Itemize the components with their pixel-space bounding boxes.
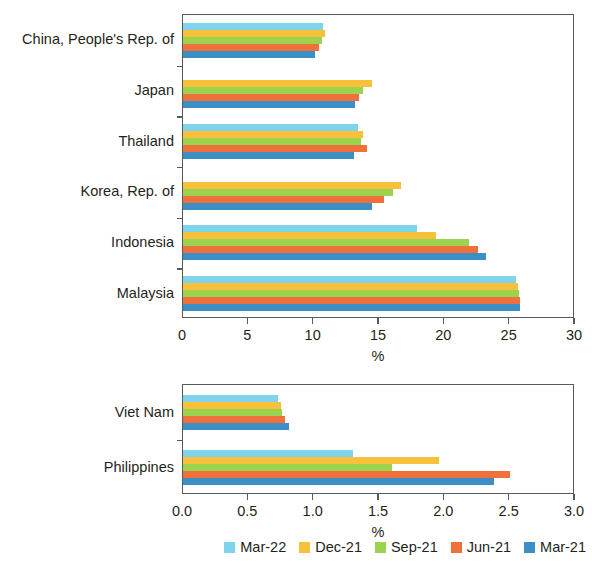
bar [183, 131, 363, 138]
bar [183, 232, 436, 239]
category-label: Japan [134, 83, 174, 98]
legend-color-swatch [299, 542, 310, 553]
chart-panel-bottom: 0.00.51.01.52.02.53.0% Viet NamPhilippin… [0, 368, 592, 528]
bar [183, 152, 354, 159]
bar [183, 402, 281, 409]
bar [183, 138, 361, 145]
bar [183, 239, 469, 246]
bar-group [183, 167, 573, 218]
category-label: Korea, Rep. of [81, 184, 175, 199]
bar [183, 478, 494, 485]
bar [183, 44, 319, 51]
bar [183, 37, 322, 44]
legend-label: Jun-21 [467, 540, 511, 555]
legend-item: Dec-21 [299, 540, 362, 555]
bar [183, 416, 285, 423]
bar [183, 124, 358, 131]
bar [183, 290, 519, 297]
bar-group [183, 116, 573, 167]
category-label: Indonesia [111, 235, 174, 250]
legend-color-swatch [224, 542, 235, 553]
legend-label: Mar-22 [240, 540, 286, 555]
bar [183, 225, 417, 232]
chart-panel-top: 051015202530% China, People's Rep. ofJap… [0, 0, 592, 360]
x-axis-tick-label: 0.5 [237, 504, 257, 519]
bar [183, 457, 439, 464]
category-label-column-bottom [0, 368, 176, 528]
x-axis-tick-label: 0 [178, 328, 186, 343]
x-axis-tick-label: 5 [243, 328, 251, 343]
x-axis-tick-label: 2.0 [433, 504, 453, 519]
x-axis-tick [573, 494, 574, 500]
bar [183, 297, 520, 304]
bar [183, 101, 355, 108]
x-axis-tick [377, 494, 378, 500]
chart-figure: 051015202530% China, People's Rep. ofJap… [0, 0, 592, 566]
bar [183, 423, 289, 430]
bar [183, 283, 518, 290]
legend-color-swatch [375, 542, 386, 553]
x-axis-tick [443, 318, 444, 324]
x-axis-tick [508, 318, 509, 324]
bar-group [183, 15, 573, 66]
category-label: Thailand [118, 134, 174, 149]
x-axis-title: % [372, 349, 385, 364]
x-axis-tick-label: 20 [435, 328, 451, 343]
bar [183, 80, 372, 87]
bar [183, 395, 278, 402]
category-label: Philippines [104, 460, 174, 475]
legend-label: Sep-21 [391, 540, 438, 555]
plot-area-top [182, 14, 574, 318]
bar [183, 464, 392, 471]
bar [183, 246, 478, 253]
bar [183, 409, 282, 416]
bar [183, 304, 520, 311]
bar-group [183, 218, 573, 269]
bar [183, 253, 486, 260]
x-axis-tick-label: 25 [501, 328, 517, 343]
bar [183, 471, 510, 478]
legend-item: Mar-21 [524, 540, 586, 555]
x-axis-tick [443, 494, 444, 500]
legend-color-swatch [524, 542, 535, 553]
bar [183, 203, 372, 210]
x-axis-tick-label: 1.5 [368, 504, 388, 519]
x-axis-tick-label: 0.0 [172, 504, 192, 519]
bar [183, 145, 367, 152]
x-axis-tick-label: 1.0 [303, 504, 323, 519]
category-label: Malaysia [117, 286, 174, 301]
bar [183, 450, 353, 457]
bar [183, 23, 323, 30]
x-axis-tick-label: 10 [305, 328, 321, 343]
legend-color-swatch [451, 542, 462, 553]
x-axis-tick-label: 3.0 [564, 504, 584, 519]
legend-item: Sep-21 [375, 540, 438, 555]
x-axis-tick [247, 318, 248, 324]
bar-group [183, 268, 573, 319]
legend-label: Mar-21 [540, 540, 586, 555]
bar [183, 94, 359, 101]
bar [183, 87, 363, 94]
bar [183, 182, 401, 189]
bar-group [183, 66, 573, 117]
bar [183, 51, 315, 58]
x-axis-tick [247, 494, 248, 500]
x-axis-tick [573, 318, 574, 324]
x-axis-tick [508, 494, 509, 500]
x-axis-tick-label: 30 [566, 328, 582, 343]
x-axis-tick [312, 318, 313, 324]
x-axis-tick [312, 494, 313, 500]
bar-group [183, 385, 573, 440]
bar [183, 196, 384, 203]
bar [183, 276, 516, 283]
bar [183, 30, 325, 37]
plot-area-bottom [182, 384, 574, 494]
chart-legend: Mar-22Dec-21Sep-21Jun-21Mar-21 [0, 536, 592, 558]
x-axis-tick-label: 15 [370, 328, 386, 343]
bar-group [183, 440, 573, 495]
category-label: China, People's Rep. of [22, 32, 174, 47]
legend-item: Jun-21 [451, 540, 511, 555]
bar [183, 189, 393, 196]
category-label: Viet Nam [115, 405, 174, 420]
legend-label: Dec-21 [315, 540, 362, 555]
